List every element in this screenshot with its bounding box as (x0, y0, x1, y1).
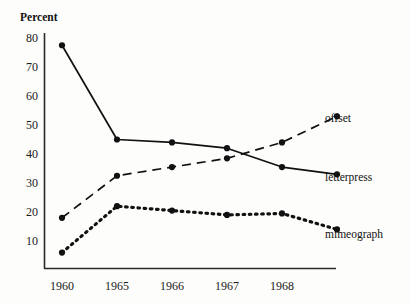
x-tick-label-1968: 1968 (270, 279, 294, 293)
series-line-mimeograph (62, 206, 337, 252)
data-point-offset-1968[interactable] (279, 139, 285, 145)
x-tick-label-1965: 1965 (105, 279, 129, 293)
x-tick-label-1966: 1966 (160, 279, 184, 293)
data-point-letterpress-1965[interactable] (114, 136, 120, 142)
y-tick-label-70: 70 (26, 60, 38, 74)
data-point-letterpress-1966[interactable] (169, 139, 175, 145)
series-line-letterpress (62, 45, 337, 174)
y-tick-label-60: 60 (26, 89, 38, 103)
data-point-offset-1960[interactable] (59, 215, 65, 221)
line-chart: Percent 80 70 60 50 40 30 20 10 1960 196… (0, 0, 410, 304)
data-point-offset-1965[interactable] (114, 173, 120, 179)
series-label-offset: offset (325, 112, 352, 124)
series-line-offset (62, 116, 337, 218)
data-point-letterpress-1967[interactable] (224, 145, 230, 151)
data-point-letterpress-1968[interactable] (279, 164, 285, 170)
y-tick-label-40: 40 (26, 147, 38, 161)
series-label-mimeograph: mimeograph (325, 228, 383, 241)
y-tick-label-80: 80 (26, 31, 38, 45)
data-point-mimeograph-1966[interactable] (169, 207, 175, 213)
data-point-offset-1966[interactable] (169, 164, 175, 170)
y-tick-label-10: 10 (26, 234, 38, 248)
data-point-mimeograph-1968[interactable] (279, 210, 285, 216)
data-point-offset-1967[interactable] (224, 155, 230, 161)
data-point-mimeograph-1967[interactable] (224, 212, 230, 218)
data-point-mimeograph-1960[interactable] (59, 250, 65, 256)
x-tick-label-1967: 1967 (215, 279, 239, 293)
data-point-mimeograph-1965[interactable] (114, 203, 120, 209)
x-tick-label-1960: 1960 (50, 279, 74, 293)
y-tick-label-30: 30 (26, 176, 38, 190)
data-point-letterpress-1960[interactable] (59, 42, 65, 48)
y-axis-title: Percent (20, 11, 58, 23)
y-tick-label-50: 50 (26, 118, 38, 132)
series-layer (59, 42, 340, 256)
y-tick-label-20: 20 (26, 205, 38, 219)
series-label-letterpress: letterpress (325, 171, 373, 184)
chart-page: Percent 80 70 60 50 40 30 20 10 1960 196… (0, 0, 410, 304)
